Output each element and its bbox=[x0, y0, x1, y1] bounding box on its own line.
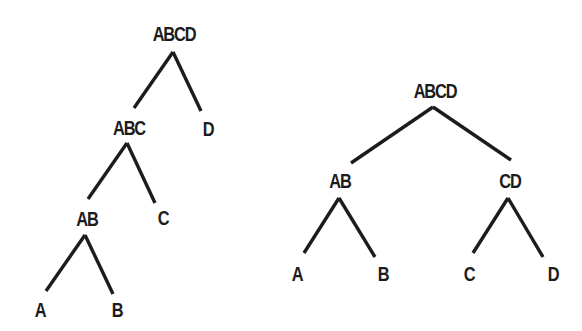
node-label-text: B bbox=[378, 262, 389, 286]
balanced-tree-node-a: A bbox=[290, 262, 304, 286]
node-label-text: D bbox=[548, 262, 559, 286]
balanced-tree-node-ab: AB bbox=[326, 169, 353, 193]
left-skewed-tree-node-ab: AB bbox=[73, 207, 100, 231]
node-label-text: AB bbox=[76, 207, 97, 231]
node-label-text: CD bbox=[499, 169, 520, 193]
balanced-tree-node-d: D bbox=[546, 262, 560, 286]
node-label-text: ABCD bbox=[153, 22, 196, 46]
left-skewed-tree-edges bbox=[46, 52, 201, 294]
edge-abc-ab bbox=[88, 143, 127, 199]
edge-abcd-cd bbox=[433, 107, 511, 160]
node-label-text: B bbox=[112, 298, 123, 322]
left-skewed-tree-node-b: B bbox=[110, 298, 124, 322]
node-label-text: A bbox=[35, 298, 46, 322]
node-label-text: ABC bbox=[113, 116, 145, 140]
left-skewed-tree-node-d: D bbox=[201, 117, 215, 141]
left-skewed-tree-node-abc: ABC bbox=[109, 116, 150, 140]
node-label-text: ABCD bbox=[414, 79, 457, 103]
edge-ab-b bbox=[85, 235, 113, 294]
node-label-text: C bbox=[464, 262, 475, 286]
edge-cd-d bbox=[508, 198, 543, 257]
node-label-text: C bbox=[158, 206, 169, 230]
node-label-text: D bbox=[203, 117, 214, 141]
left-skewed-tree-node-abcd: ABCD bbox=[147, 22, 202, 46]
edge-abcd-ab bbox=[351, 107, 433, 163]
edge-abc-c bbox=[127, 143, 155, 203]
balanced-tree-node-c: C bbox=[462, 262, 476, 286]
edge-cd-c bbox=[473, 198, 508, 253]
balanced-tree-node-abcd: ABCD bbox=[408, 79, 463, 103]
edge-abcd-d bbox=[173, 52, 201, 111]
balanced-tree-node-b: B bbox=[376, 262, 390, 286]
node-label-text: A bbox=[292, 262, 303, 286]
balanced-tree-node-cd: CD bbox=[496, 169, 523, 193]
left-skewed-tree-node-c: C bbox=[156, 206, 170, 230]
edge-ab-a bbox=[304, 198, 339, 253]
node-label-text: AB bbox=[329, 169, 350, 193]
edge-ab-b bbox=[339, 198, 375, 257]
left-skewed-tree-node-a: A bbox=[33, 298, 47, 322]
edge-abcd-abc bbox=[134, 52, 173, 108]
edge-ab-a bbox=[46, 235, 85, 291]
